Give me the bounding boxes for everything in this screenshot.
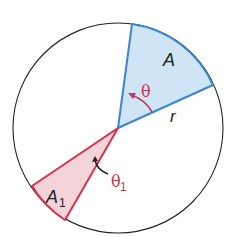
- sector-a1: [32, 128, 118, 220]
- sector-a1-label: A: [45, 187, 58, 207]
- theta-label: θ: [141, 82, 151, 101]
- sector-diagram: A θ r A 1 θ 1: [0, 0, 235, 237]
- sector-a1-subscript: 1: [59, 196, 66, 210]
- theta1-subscript: 1: [120, 180, 127, 194]
- radius-label: r: [170, 107, 177, 126]
- sector-a-label: A: [162, 50, 175, 70]
- sector-a: [118, 24, 213, 128]
